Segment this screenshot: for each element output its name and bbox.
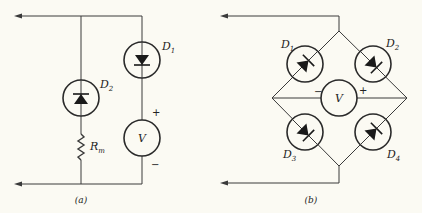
plus-sign-b: + [359,85,367,96]
circuit-figure: D2 Rm D1 V + − (a) [0,0,422,213]
arrow-left-icon [220,14,228,19]
bottom-wire-b [224,166,339,183]
voltmeter-label-b: V [335,92,344,105]
minus-sign-a: − [151,159,159,170]
minus-sign-b: − [314,86,322,97]
label-d1-b: D1 [280,38,294,53]
top-wire-b [224,16,339,31]
diode-d1-a [124,42,160,78]
voltmeter-a: V [124,120,160,156]
label-rm-a: Rm [89,140,105,155]
arrow-left-icon [14,182,22,187]
label-d2-a: D2 [99,78,114,93]
voltmeter-b: V [321,80,357,116]
caption-b: (b) [305,195,318,205]
panel-b: D1 D2 D3 [220,14,407,206]
label-d4-b: D4 [386,148,400,163]
arrow-left-icon [14,14,22,19]
voltmeter-label-a: V [138,132,147,145]
label-d3-b: D3 [282,148,297,163]
arrow-left-icon [220,181,228,186]
label-d2-b: D2 [385,37,400,52]
diode-d2-a [63,80,99,116]
diode-d2-b [355,46,391,82]
resistor-rm-icon [78,134,84,160]
diode-d4-b [355,114,391,150]
label-d1-a: D1 [161,40,175,55]
caption-a: (a) [75,195,88,205]
panel-a: D2 Rm D1 V + − (a) [14,14,175,206]
diode-d3-b [287,114,323,150]
plus-sign-a: + [152,107,160,118]
